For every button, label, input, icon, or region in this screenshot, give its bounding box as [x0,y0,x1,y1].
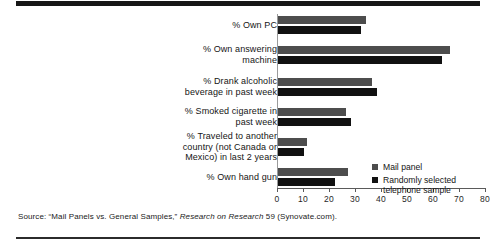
bar-telephone-sample [278,26,361,34]
legend-label-telephone-sample-line2: telephone sample [383,185,451,195]
top-rule [16,1,480,6]
bar-mail-panel [278,108,346,116]
legend-swatch-icon-telephone-sample [372,177,378,183]
axis-vertical-line [277,14,278,188]
x-axis-tick [303,188,304,192]
bar-telephone-sample [278,118,351,126]
source-prefix: Source: “Mail Panels vs. General Samples… [18,212,180,221]
category-label: % Own answeringmachine [87,44,277,65]
bar-telephone-sample [278,148,304,156]
legend-item-mail-panel: Mail panel [372,162,490,172]
category-label-line: % Own hand gun [87,172,277,183]
category-label: % Drank alcoholicbeverage in past week [87,76,277,97]
category-label-line: % Smoked cigarette in [87,106,277,117]
source-suffix: 59 (Synovate.com). [264,212,338,221]
x-axis-tick-label: 30 [343,194,367,204]
x-axis-tick-label: 0 [265,194,289,204]
bar-mail-panel [278,46,450,54]
bar-mail-panel [278,138,307,146]
bar-telephone-sample [278,88,377,96]
legend-label-mail-panel: Mail panel [383,162,422,172]
x-axis-tick [277,188,278,192]
category-label-line: % Own PC [87,20,277,31]
bar-mail-panel [278,16,366,24]
source-italic-title: Research on Research [180,212,264,221]
category-label-line: % Own answering [87,44,277,55]
x-axis-tick [329,188,330,192]
category-label: % Own hand gun [87,172,277,183]
legend-swatch-icon-mail-panel [372,164,378,170]
legend-item-telephone-sample: Randomly selected telephone sample [372,175,490,195]
bar-telephone-sample [278,178,335,186]
x-axis-tick-label: 20 [317,194,341,204]
bar-telephone-sample [278,56,442,64]
legend-label-telephone-sample-line1: Randomly selected [383,175,456,185]
category-label-line: beverage in past week [87,87,277,98]
bottom-rule [16,237,480,239]
bar-chart: % Own PC% Own answeringmachine% Drank al… [0,12,496,204]
x-axis-tick-label: 10 [291,194,315,204]
bar-mail-panel [278,168,348,176]
chart-legend: Mail panel Randomly selected telephone s… [372,162,490,198]
category-label-line: % Traveled to another [87,131,277,142]
source-note: Source: “Mail Panels vs. General Samples… [18,212,337,221]
category-label: % Smoked cigarette inpast week [87,106,277,127]
category-label-line: past week [87,117,277,128]
category-label-line: country (not Canada or [87,142,277,153]
bar-mail-panel [278,78,372,86]
category-label-line: % Drank alcoholic [87,76,277,87]
category-label-line: Mexico) in last 2 years [87,152,277,163]
category-label-line: machine [87,55,277,66]
category-label: % Own PC [87,20,277,31]
x-axis-tick [355,188,356,192]
category-label: % Traveled to anothercountry (not Canada… [87,131,277,163]
